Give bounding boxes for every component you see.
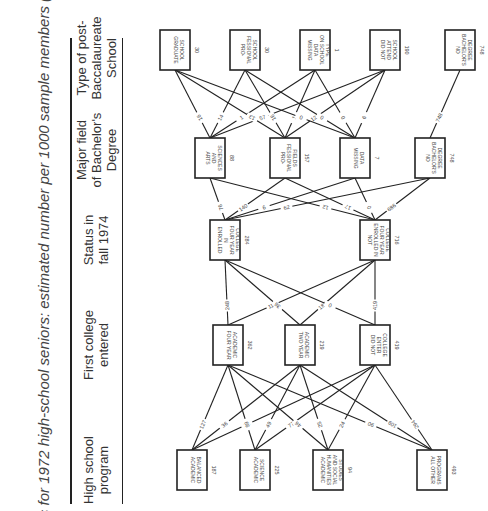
edge-st2-mf2: 17 <box>285 178 375 220</box>
edge-mf4-pb5: 748 <box>430 70 460 138</box>
node-label: ACADEMIC <box>232 332 238 359</box>
node-count: 7 <box>374 156 380 159</box>
edge-hs1-fc1: 127 <box>192 365 228 450</box>
edge-fc1-st1: 248 <box>224 260 231 325</box>
node-label: STUDIES <box>338 459 344 481</box>
node-count: 493 <box>451 465 457 474</box>
node-label: FOUR YEAR <box>226 330 232 359</box>
node-fc1: FOUR YEARACADEMIC362 <box>213 325 253 365</box>
node-pb4: DID NOTATTENDSCHOOL190 <box>370 30 410 70</box>
node-count: 219 <box>319 340 325 349</box>
node-label: NOT <box>367 235 373 246</box>
node-label: ACADEMIC <box>304 332 310 359</box>
node-label: FOUR YEAR <box>379 225 385 254</box>
node-count: 748 <box>449 153 455 162</box>
node-label: COLLEGE <box>235 228 241 252</box>
node-label: COLLEGE <box>382 333 388 357</box>
edge-st2-mf3: 0 <box>355 178 375 220</box>
node-st1: ENROLLEDINFOUR YEARCOLLEGE284 <box>210 220 250 260</box>
edge-fc3-st2: 419 <box>372 260 378 325</box>
edge-fc2-st1: 36 <box>225 260 300 325</box>
node-label: ACADEMIC <box>190 457 196 484</box>
node-label: FESSIONAL <box>286 144 292 172</box>
node-mf3: MISSINGDATA7 <box>340 138 380 178</box>
node-label: MISSING <box>307 39 313 60</box>
node-label: DATA <box>359 152 365 165</box>
node-count: 1 <box>334 48 340 51</box>
node-label: IN <box>223 238 229 243</box>
node-label: DATA <box>313 44 319 57</box>
node-label: ENTER <box>376 337 382 354</box>
node-label: BALANCED <box>196 457 202 484</box>
node-label: TWO YEAR <box>298 332 304 359</box>
node-label: ARTS <box>205 151 211 165</box>
edge-hs3-fc1: 46 <box>228 365 328 450</box>
edge-mf3-pb1: 0 <box>175 70 355 138</box>
node-count: 187 <box>211 465 217 474</box>
node-label: PRO- <box>240 44 246 57</box>
node-label: BACHELOR'S <box>431 142 437 174</box>
edge-hs4-fc3: 294 <box>375 365 432 450</box>
edge-hs3-fc2: 25 <box>300 365 328 450</box>
node-count: 30 <box>194 47 200 53</box>
node-hs1: ACADEMICBALANCED187 <box>177 450 217 490</box>
edge-st1-mf3: 6 <box>225 178 355 220</box>
node-label: HUMANITIES <box>326 455 332 487</box>
node-label: DID NOT <box>370 335 376 356</box>
node-label: ENROLLED IN <box>373 223 379 257</box>
edge-fc2-st2: 183 <box>300 260 375 325</box>
node-fc3: DID NOTENTERCOLLEGE419 <box>360 325 400 365</box>
pathway-diagram: 1273624994977462524901092942481143618304… <box>0 0 488 511</box>
node-count: 190 <box>404 45 410 54</box>
node-count: 225 <box>274 465 280 474</box>
node-pb3: MISSINGDATAON SCHOOLTYPE1 <box>300 30 340 70</box>
node-label: DEGREE <box>437 147 443 169</box>
node-label: SCIENCE <box>259 459 265 482</box>
node-count: 748 <box>479 45 485 54</box>
node-label: TYPE <box>325 43 331 57</box>
edge-st1-mf1: 76 <box>210 178 225 220</box>
edge-hs2-fc1: 99 <box>228 365 255 450</box>
node-hs3: ACADEMICHUMANITIESAND SOCIALSTUDIES94 <box>313 450 353 490</box>
node-pb5: NOBACHELOR'SDEGREE748 <box>445 30 485 70</box>
node-fc2: TWO YEARACADEMIC219 <box>285 325 325 365</box>
edge-label: 419 <box>372 301 378 310</box>
node-label: SCHOOL <box>392 39 398 60</box>
node-label: ACADEMIC <box>320 457 326 484</box>
node-label: GRADUATE <box>173 36 179 64</box>
node-label: AND SOCIAL <box>332 455 338 486</box>
edge-mf1-pb4: 57 <box>210 70 385 138</box>
node-count: 30 <box>264 47 270 53</box>
node-label: ACADEMIC <box>253 457 259 484</box>
edge-hs3-fc3: 24 <box>328 365 375 450</box>
node-hs4: ALL OTHERPROGRAMS493 <box>417 450 457 490</box>
node-label: FOUR YEAR <box>229 225 235 254</box>
node-count: 284 <box>244 235 250 244</box>
node-count: 419 <box>394 340 400 349</box>
edge-mf2-pb1: 13 <box>175 70 285 138</box>
edge-label: 62 <box>283 204 290 211</box>
node-count: 362 <box>247 340 253 349</box>
nodes: ACADEMICBALANCED187ACADEMICSCIENCE225ACA… <box>160 30 485 490</box>
node-label: COLLEGE <box>385 228 391 252</box>
node-count: 716 <box>394 235 400 244</box>
node-label: NO <box>425 154 431 162</box>
node-label: SCHOOL <box>179 39 185 60</box>
node-count: 94 <box>347 467 353 473</box>
node-label: ALL OTHER <box>430 456 436 484</box>
node-label: ENROLLED <box>217 227 223 254</box>
node-count: 157 <box>304 153 310 162</box>
edge-hs4-fc1: 90 <box>228 365 432 450</box>
node-label: ATTEND <box>386 40 392 60</box>
node-label: FIELDS <box>292 149 298 167</box>
node-label: DID NOT <box>380 40 386 61</box>
node-pb1: GRADUATESCHOOL30 <box>160 30 200 70</box>
edge-mf3-pb3: 0 <box>315 70 355 138</box>
edge-mf1-pb2: 14 <box>210 70 245 138</box>
node-label: NO <box>455 46 461 54</box>
node-pb2: PRO-FESSIONALSCHOOL30 <box>230 30 270 70</box>
node-label: AND <box>211 153 217 164</box>
node-label: FESSIONAL <box>246 36 252 64</box>
node-label: PROGRAMS <box>436 455 442 485</box>
edge-hs4-fc2: 109 <box>300 365 432 450</box>
